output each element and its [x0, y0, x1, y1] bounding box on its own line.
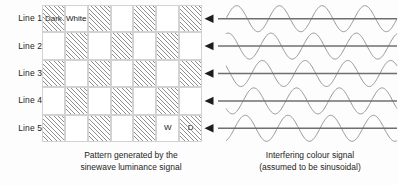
pattern-cell-r2-c7 — [179, 32, 202, 59]
pattern-cell-r2-c4 — [111, 32, 134, 59]
arrow-head-icon-4 — [205, 97, 214, 105]
pattern-cell-r4-c3 — [88, 87, 111, 114]
pattern-cell-r3-c4 — [111, 60, 134, 87]
wave-row-3 — [205, 61, 398, 87]
caption-right-line2: (assumed to be sinusoidal) — [222, 162, 398, 174]
pattern-cell-r3-c1 — [42, 60, 65, 87]
checkerboard-pattern: DarkWhiteWD — [42, 5, 202, 142]
pattern-cell-r1-c3 — [88, 5, 111, 32]
pattern-cell-r4-c5 — [133, 87, 156, 114]
figure-root: Line 1Line 2Line 3Line 4Line 5 DarkWhite… — [0, 0, 398, 185]
pattern-cell-r1-c1: Dark — [42, 5, 65, 32]
pattern-cell-r1-c7 — [179, 5, 202, 32]
wave-row-4 — [205, 88, 398, 114]
pattern-cell-r5-c4 — [111, 115, 134, 142]
caption-left: Pattern generated by the sinewave lumina… — [42, 150, 220, 173]
caption-right-line1: Interfering colour signal — [222, 150, 398, 162]
interfering-signal-waveforms — [202, 0, 398, 145]
wave-row-5 — [205, 115, 398, 141]
caption-left-line2: sinewave luminance signal — [42, 162, 220, 174]
line-label-5: Line 5 — [0, 124, 42, 133]
pattern-cell-r4-c1 — [42, 87, 65, 114]
pattern-cell-r3-c5 — [133, 60, 156, 87]
pattern-cell-r5-c1 — [42, 115, 65, 142]
pattern-cell-r4-c6 — [156, 87, 179, 114]
caption-left-line1: Pattern generated by the — [42, 150, 220, 162]
pattern-cell-r3-c2 — [65, 60, 88, 87]
pattern-cell-r1-c5 — [133, 5, 156, 32]
pattern-cell-r3-c6 — [156, 60, 179, 87]
pattern-cell-r4-c2 — [65, 87, 88, 114]
line-label-1: Line 1 — [0, 14, 42, 23]
pattern-cell-r5-c7: D — [179, 115, 202, 142]
pattern-cell-r5-c2 — [65, 115, 88, 142]
pattern-cell-r5-c5 — [133, 115, 156, 142]
cell-legend-dark: Dark — [43, 15, 64, 23]
cell-legend-white: White — [66, 15, 87, 23]
pattern-cell-r2-c5 — [133, 32, 156, 59]
line-label-2: Line 2 — [0, 42, 42, 51]
pattern-cell-r2-c2 — [65, 32, 88, 59]
arrow-head-icon-2 — [205, 42, 214, 50]
pattern-cell-r1-c6 — [156, 5, 179, 32]
pattern-cell-r1-c4 — [111, 5, 134, 32]
cell-marker-white: W — [157, 124, 178, 132]
wave-row-1 — [205, 6, 398, 32]
pattern-cell-r3-c7 — [179, 60, 202, 87]
pattern-cell-r5-c6: W — [156, 115, 179, 142]
caption-right: Interfering colour signal (assumed to be… — [222, 150, 398, 173]
pattern-cell-r5-c3 — [88, 115, 111, 142]
pattern-cell-r4-c7 — [179, 87, 202, 114]
line-label-4: Line 4 — [0, 96, 42, 105]
pattern-cell-r1-c2: White — [65, 5, 88, 32]
arrow-head-icon-3 — [205, 69, 214, 77]
arrow-head-icon-5 — [205, 124, 214, 132]
arrow-head-icon-1 — [205, 15, 214, 23]
pattern-cell-r2-c1 — [42, 32, 65, 59]
pattern-cell-r2-c6 — [156, 32, 179, 59]
line-label-3: Line 3 — [0, 69, 42, 78]
wave-row-2 — [205, 33, 398, 59]
pattern-cell-r3-c3 — [88, 60, 111, 87]
pattern-cell-r2-c3 — [88, 32, 111, 59]
pattern-cell-r4-c4 — [111, 87, 134, 114]
cell-marker-dark: D — [180, 124, 201, 132]
